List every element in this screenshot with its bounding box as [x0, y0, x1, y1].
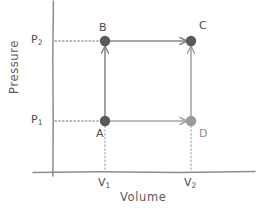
x-tick-sub-v1: 1	[106, 181, 111, 190]
y-tick-base-p2: P	[31, 33, 38, 46]
y-tick-label-p1: P1	[31, 113, 42, 126]
x-tick-label-v2: V2	[184, 176, 196, 189]
point-label-d: D	[199, 127, 207, 140]
data-point-b	[100, 36, 110, 46]
x-tick-base-v2: V	[184, 176, 192, 189]
point-label-a: A	[96, 127, 104, 140]
axis-lines	[33, 1, 255, 176]
x-tick-base-v1: V	[98, 176, 106, 189]
x-tick-label-v1: V1	[98, 176, 110, 189]
y-axis-line	[53, 1, 54, 176]
point-label-b: B	[99, 21, 107, 34]
data-point-d	[186, 116, 196, 126]
y-tick-base-p1: P	[31, 113, 38, 126]
state-points	[100, 36, 196, 126]
y-tick-label-p2: P2	[31, 33, 42, 46]
pv-diagram-figure: Pressure Volume P2 P1 V1 V2 A B C D	[0, 0, 262, 209]
plot-area	[0, 0, 262, 209]
y-tick-sub-p1: 1	[38, 118, 43, 127]
x-tick-sub-v2: 2	[192, 181, 197, 190]
y-axis-title: Pressure	[7, 37, 21, 97]
process-paths	[105, 41, 191, 121]
y-tick-sub-p2: 2	[38, 38, 43, 47]
x-axis-line	[33, 172, 255, 173]
guide-lines	[55, 41, 191, 172]
point-label-c: C	[199, 19, 207, 32]
data-point-c	[186, 36, 196, 46]
data-point-a	[100, 116, 110, 126]
x-axis-title: Volume	[120, 190, 166, 204]
